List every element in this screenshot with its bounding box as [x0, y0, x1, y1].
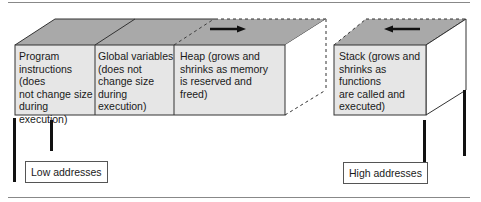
low-addresses-label: Low addresses	[25, 161, 108, 183]
heap-label: Heap (grows and shrinks as memory is res…	[180, 50, 284, 100]
label-line: shrinks as memory	[180, 63, 284, 76]
label-line: is reserved and	[180, 75, 284, 88]
label-line: Global variables	[98, 50, 174, 63]
label-line: Stack (grows and	[339, 50, 429, 63]
program-instructions-label: Program instructions (does not change si…	[19, 50, 95, 126]
label-line: change size	[98, 75, 174, 88]
stack-label: Stack (grows and shrinks as functions ar…	[339, 50, 429, 113]
high-addresses-label: High addresses	[343, 162, 428, 184]
label-line: executed)	[339, 100, 429, 113]
label-line: (does not	[98, 63, 174, 76]
label-line: shrinks as functions	[339, 63, 429, 88]
label-line: freed)	[180, 88, 284, 101]
left-block-top-face	[15, 19, 326, 45]
label-line: not change size	[19, 88, 95, 101]
global-variables-label: Global variables (does not change size d…	[98, 50, 174, 113]
label-line: are called and	[339, 88, 429, 101]
label-line: Heap (grows and	[180, 50, 284, 63]
label-line: Program	[19, 50, 95, 63]
label-line: during execution)	[19, 100, 95, 125]
label-line: during execution)	[98, 88, 174, 113]
label-line: instructions (does	[19, 63, 95, 88]
